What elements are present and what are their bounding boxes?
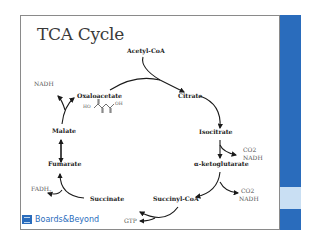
byproduct-isocitrate-co2: CO2 — [243, 146, 256, 153]
brand-logo-icon — [22, 215, 32, 224]
oxaloacetate-structure — [94, 99, 114, 113]
node-isocitrate: Isocitrate — [199, 128, 233, 135]
node-malate: Malate — [52, 127, 76, 134]
fadh-text: FADH — [31, 185, 49, 192]
node-oxaloacetate: Oxaloacetate — [77, 92, 122, 99]
node-citrate: Citrate — [178, 92, 202, 99]
brand-logo-text: Boards&Beyond — [35, 215, 99, 224]
byproduct-isocitrate-nadh: NADH — [243, 154, 263, 161]
node-fumarate: Fumarate — [48, 160, 81, 167]
byproduct-gtp: GTP — [124, 217, 137, 224]
byproduct-malate-nadh: NADH — [34, 80, 54, 87]
node-succinyl-coa: Succinyl-CoA — [153, 195, 199, 202]
oxaloacetate-ho: HO — [83, 104, 91, 109]
node-succinate: Succinate — [90, 195, 124, 202]
brand-logo: Boards&Beyond — [22, 215, 99, 224]
byproduct-fadh2: FADH2 — [31, 185, 52, 194]
byproduct-akg-nadh: NADH — [239, 195, 259, 202]
oxaloacetate-oh: OH — [115, 101, 123, 106]
fadh-subscript: 2 — [49, 189, 52, 194]
byproduct-akg-co2: CO2 — [241, 187, 254, 194]
node-alpha-ketoglutarate: α-ketoglutarate — [194, 160, 249, 167]
node-acetyl-coa: Acetyl-CoA — [127, 47, 165, 54]
cycle-arrows — [0, 0, 317, 247]
